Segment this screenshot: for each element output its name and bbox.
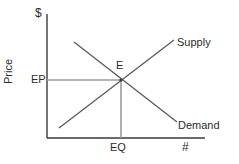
equilibrium-point-marker	[119, 78, 122, 81]
equilibrium-point-label: E	[116, 60, 123, 71]
supply-curve	[59, 40, 174, 128]
x-axis-unit-label: #	[182, 141, 189, 153]
supply-curve-label: Supply	[177, 37, 211, 48]
equilibrium-price-label: EP	[31, 74, 46, 85]
y-axis-unit-label: $	[35, 7, 42, 19]
equilibrium-quantity-label: EQ	[110, 142, 126, 153]
demand-curve-label: Demand	[178, 120, 220, 131]
demand-curve	[74, 42, 177, 122]
y-axis-title: Price	[3, 59, 14, 84]
supply-demand-diagram: $ Price EP E EQ # Supply Demand	[0, 0, 239, 164]
